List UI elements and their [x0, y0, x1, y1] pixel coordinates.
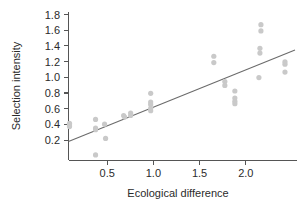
data-point [67, 124, 72, 129]
data-point [282, 62, 287, 67]
data-point [232, 101, 237, 106]
data-points-group [67, 22, 288, 158]
x-axis-title: Ecological difference [127, 187, 228, 199]
data-point [211, 60, 216, 65]
data-point [103, 136, 108, 141]
y-tick-label-1.8: 1.8 [45, 9, 60, 21]
y-tick-label-0.8: 0.8 [45, 87, 60, 99]
data-point [148, 91, 153, 96]
data-point [102, 122, 107, 127]
y-tick-label-1.6: 1.6 [45, 24, 60, 36]
data-point [222, 83, 227, 88]
y-axis-ticks [64, 15, 69, 141]
x-tick-label-0.5: 0.5 [100, 167, 115, 179]
regression-line [69, 50, 295, 142]
data-point [128, 113, 133, 118]
data-point [93, 152, 98, 157]
data-point [256, 75, 261, 80]
data-point [257, 50, 262, 55]
data-point [232, 88, 237, 93]
data-point [93, 117, 98, 122]
y-tick-label-0.2: 0.2 [45, 134, 60, 146]
x-tick-label-2.0: 2.0 [238, 167, 253, 179]
x-tick-label-1.0: 1.0 [146, 167, 161, 179]
data-point [282, 69, 287, 74]
data-point [211, 54, 216, 59]
y-tick-label-1.2: 1.2 [45, 56, 60, 68]
y-tick-label-1.0: 1.0 [45, 71, 60, 83]
data-point [148, 108, 153, 113]
y-tick-label-1.4: 1.4 [45, 40, 60, 52]
data-point [122, 114, 127, 119]
data-point [257, 46, 262, 51]
data-point [258, 28, 263, 33]
x-axis-ticks [107, 161, 246, 166]
y-axis-title: Selection intensity [10, 41, 22, 130]
y-tick-label-0.6: 0.6 [45, 103, 60, 115]
data-point [93, 127, 98, 132]
scatter-plot-figure: 1.8 1.6 1.4 1.2 1.0 0.8 0.6 0.4 0.2 0.5 … [0, 0, 302, 205]
plot-canvas: 1.8 1.6 1.4 1.2 1.0 0.8 0.6 0.4 0.2 0.5 … [0, 0, 302, 205]
data-point [258, 22, 263, 27]
y-tick-label-0.4: 0.4 [45, 118, 60, 130]
x-tick-label-1.5: 1.5 [192, 167, 207, 179]
